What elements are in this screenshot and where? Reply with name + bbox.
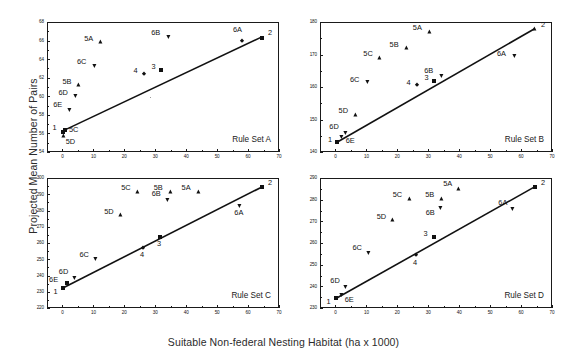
panel-caption: Rule Set C [231,291,271,300]
data-point-marker [61,286,65,290]
data-point-marker [344,285,348,289]
data-point-label: 6C [77,58,86,65]
y-tick-label: 280 [29,208,44,213]
data-point-marker [390,218,394,222]
data-point-label: 6A [233,26,242,33]
data-point-label: 5C [69,126,78,133]
x-tick-label: 20 [116,154,132,159]
y-tick-label: 230 [302,305,317,310]
data-point-marker [92,64,96,68]
data-point-label: 5B [425,191,434,198]
data-point-marker [94,257,98,261]
data-point-marker [440,74,444,78]
data-point-label: 6A [498,199,507,206]
trend-line [47,22,279,152]
data-point-marker [511,207,515,211]
data-point-marker [119,213,123,217]
data-point-marker [65,281,69,285]
x-tick-label: 0 [327,154,343,159]
data-point-marker [438,206,442,210]
y-tick-mark [47,152,50,153]
y-tick-label: 68 [29,19,44,24]
data-point-marker [365,80,369,84]
data-point-marker [404,46,408,50]
x-tick-label: 0 [54,154,70,159]
y-tick-label: 160 [302,84,317,89]
y-tick-label: 230 [29,289,44,294]
data-point-marker [440,196,444,200]
data-point-label: 2 [541,179,545,186]
y-tick-label: 270 [29,224,44,229]
y-tick-label: 180 [302,19,317,24]
data-point-label: 5B [390,41,399,48]
y-tick-label: 62 [29,75,44,80]
data-point-marker [407,196,411,200]
x-tick-label: 40 [178,310,194,315]
data-point-label: 6B [152,190,161,197]
panel-rule-set-c: 2202302402502602702802903000102030405060… [47,178,279,308]
x-tick-label: 20 [389,154,405,159]
data-point-label: 5B [62,78,71,85]
data-point-label: 5D [377,213,386,220]
y-tick-label: 170 [302,52,317,57]
data-point-label: 5D [104,208,113,215]
x-tick-label: 30 [420,310,436,315]
data-point-label: 2 [268,29,272,36]
data-point-marker [367,251,371,255]
data-point-marker [74,94,78,98]
panel-rule-set-d: 2302402502602702802900102030405060701234… [320,178,552,308]
data-point-marker [339,135,343,139]
y-tick-label: 240 [302,284,317,289]
trend-line [320,22,552,152]
data-point-marker [165,198,169,202]
data-point-label: 4 [140,251,144,258]
data-point-label: 4 [133,67,137,74]
data-point-marker [136,189,140,193]
x-axis-title: Suitable Non-federal Nesting Habitat (ha… [0,336,567,348]
data-point-marker [334,296,338,300]
data-point-label: 6E [49,276,58,283]
data-point-label: 1 [326,298,330,305]
data-point-label: 1 [52,124,56,131]
data-point-label: 3 [151,63,155,70]
data-point-marker [512,54,516,58]
x-tick-label: 20 [116,310,132,315]
x-tick-label: 0 [54,310,70,315]
data-point-marker [77,83,81,87]
x-tick-label: 50 [209,310,225,315]
data-point-marker [335,140,339,144]
y-tick-label: 54 [29,149,44,154]
y-tick-label: 58 [29,112,44,117]
y-tick-label: 260 [302,240,317,245]
data-point-marker [432,79,436,83]
panel-caption: Rule Set D [504,291,544,300]
x-tick-label: 10 [85,310,101,315]
data-point-marker [61,134,65,138]
data-point-marker [72,276,76,280]
data-point-marker [159,68,163,72]
x-tick-label: 70 [544,154,560,159]
x-tick-label: 10 [358,310,374,315]
data-point-marker [427,29,431,33]
data-point-label: 5A [84,35,93,42]
x-tick-mark [279,305,280,308]
data-point-marker [339,293,343,297]
x-tick-label: 40 [178,154,194,159]
data-point-marker [168,189,172,193]
panel-rule-set-a: 545658606264666801020304050607012345A5B5… [47,22,279,152]
y-tick-label: 66 [29,38,44,43]
data-point-label: 4 [406,79,410,86]
data-point-marker [63,128,67,132]
data-point-label: 6E [345,296,354,303]
data-point-label: 5D [339,107,348,114]
data-point-marker [260,36,264,40]
data-point-label: 6B [151,29,160,36]
y-tick-mark [47,308,50,309]
panel-caption: Rule Set B [505,135,544,144]
x-tick-label: 30 [420,154,436,159]
data-point-label: 1 [328,136,332,143]
data-point-marker [344,131,348,135]
data-point-label: 6D [330,277,339,284]
x-tick-label: 70 [271,310,287,315]
x-tick-mark [552,149,553,152]
